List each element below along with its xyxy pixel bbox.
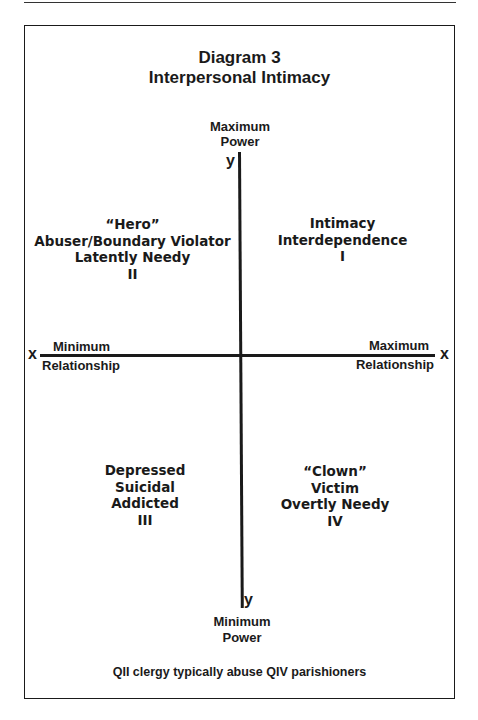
y-top-label-line1: Maximum	[190, 119, 290, 134]
quadrant-iii-label: Depressed Suicidal Addicted III	[90, 462, 200, 528]
diagram-caption: QII clergy typically abuse QIV parishion…	[24, 665, 455, 679]
q4-line-4: IV	[270, 513, 400, 530]
y-bottom-label: Minimum Power	[192, 614, 292, 646]
x-left-letter: x	[28, 346, 37, 362]
q4-line-1: “Clown”	[270, 463, 400, 480]
q2-line-1: “Hero”	[30, 216, 235, 233]
q1-line-1: Intimacy	[260, 215, 425, 232]
q2-line-4: II	[30, 266, 235, 283]
x-left-label-line1: Minimum	[53, 339, 110, 354]
q4-line-3: Overtly Needy	[270, 496, 400, 513]
y-bottom-label-line2: Power	[192, 630, 292, 646]
q2-line-2: Abuser/Boundary Violator	[30, 233, 235, 250]
q1-line-3: I	[260, 248, 425, 265]
q4-line-2: Victim	[270, 480, 400, 497]
y-top-label-line2: Power	[190, 134, 290, 149]
y-top-letter: y	[226, 153, 235, 169]
x-right-label-line2: Relationship	[354, 357, 436, 372]
q1-line-2: Interdependence	[260, 232, 425, 249]
diagram-number: Diagram 3	[24, 48, 455, 67]
y-bottom-letter: y	[244, 592, 253, 608]
x-right-letter: x	[440, 346, 449, 362]
quadrant-i-label: Intimacy Interdependence I	[260, 215, 425, 265]
q3-line-3: Addicted	[90, 495, 200, 512]
q2-line-3: Latently Needy	[30, 249, 235, 266]
x-left-label-line2: Relationship	[42, 358, 120, 373]
x-right-label-line1: Maximum	[364, 338, 434, 353]
y-top-label: Maximum Power	[190, 119, 290, 149]
y-bottom-label-line1: Minimum	[192, 614, 292, 630]
diagram-title: Interpersonal Intimacy	[24, 68, 455, 87]
q3-line-2: Suicidal	[90, 479, 200, 496]
quadrant-iv-label: “Clown” Victim Overtly Needy IV	[270, 463, 400, 529]
q3-line-1: Depressed	[90, 462, 200, 479]
top-rule	[24, 2, 456, 3]
quadrant-ii-label: “Hero” Abuser/Boundary Violator Latently…	[30, 216, 235, 282]
q3-line-4: III	[90, 512, 200, 529]
